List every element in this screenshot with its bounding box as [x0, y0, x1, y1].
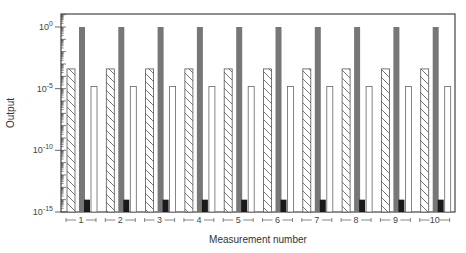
bar-group-4 — [185, 27, 215, 212]
bars — [67, 27, 451, 212]
bar-group-5 — [224, 27, 254, 212]
bar-white — [248, 86, 254, 212]
bar-gray — [433, 27, 439, 212]
bar-group-8 — [342, 27, 372, 212]
bar-gray — [79, 27, 85, 212]
x-category-6: 6 — [263, 215, 293, 225]
x-tick-label: 2 — [118, 215, 123, 225]
bar-group-9 — [381, 27, 411, 212]
bar-hatched — [421, 69, 429, 212]
x-category-4: 4 — [184, 215, 214, 225]
x-category-8: 8 — [341, 215, 371, 225]
bar-gray — [276, 27, 282, 212]
x-category-7: 7 — [302, 215, 332, 225]
bar-white — [327, 86, 333, 212]
bar-black — [123, 200, 129, 212]
y-tick-label: 10-10 — [33, 143, 53, 155]
x-category-10: 10 — [420, 215, 450, 225]
bar-hatched — [264, 69, 272, 212]
y-axis-title: Output — [5, 98, 16, 128]
x-axis-title: Measurement number — [209, 234, 307, 245]
bar-black — [320, 200, 326, 212]
bar-hatched — [303, 69, 311, 212]
x-category-9: 9 — [380, 215, 410, 225]
bar-black — [163, 200, 169, 212]
x-category-1: 1 — [66, 215, 96, 225]
x-category-5: 5 — [223, 215, 253, 225]
bar-white — [170, 86, 176, 212]
x-tick-label: 10 — [430, 215, 440, 225]
bar-black — [438, 200, 444, 212]
bar-hatched — [67, 69, 75, 212]
bar-group-1 — [67, 27, 97, 212]
bar-hatched — [381, 69, 389, 212]
y-tick-label: 10-5 — [37, 82, 53, 94]
bar-white — [91, 86, 97, 212]
bar-gray — [118, 27, 124, 212]
bar-gray — [315, 27, 321, 212]
x-tick-label: 9 — [393, 215, 398, 225]
bar-group-2 — [106, 27, 136, 212]
x-tick-label: 7 — [314, 215, 319, 225]
bar-white — [288, 86, 294, 212]
bar-black — [359, 200, 365, 212]
bar-group-6 — [264, 27, 294, 212]
bar-black — [398, 200, 404, 212]
x-tick-label: 4 — [196, 215, 201, 225]
bar-white — [405, 86, 411, 212]
y-tick-label: 100 — [39, 20, 53, 32]
bar-gray — [236, 27, 242, 212]
bar-hatched — [106, 69, 114, 212]
x-axis: 12345678910 — [66, 215, 450, 225]
bar-black — [202, 200, 208, 212]
bar-white — [366, 86, 372, 212]
bar-gray — [393, 27, 399, 212]
bar-black — [84, 200, 90, 212]
x-tick-label: 3 — [157, 215, 162, 225]
bar-hatched — [185, 69, 193, 212]
y-tick-label: 10-15 — [33, 205, 53, 217]
bar-black — [241, 200, 247, 212]
bar-chart: 10010-510-1010-15 12345678910 Measuremen… — [0, 0, 466, 253]
bar-gray — [197, 27, 203, 212]
bar-white — [209, 86, 215, 212]
bar-group-10 — [421, 27, 451, 212]
bar-white — [130, 86, 136, 212]
bar-hatched — [224, 69, 232, 212]
x-tick-label: 5 — [236, 215, 241, 225]
bar-gray — [354, 27, 360, 212]
bar-group-3 — [146, 27, 176, 212]
x-tick-label: 6 — [275, 215, 280, 225]
bar-hatched — [146, 69, 154, 212]
x-tick-label: 8 — [354, 215, 359, 225]
bar-group-7 — [303, 27, 333, 212]
x-category-2: 2 — [105, 215, 135, 225]
bar-white — [445, 86, 451, 212]
bar-black — [281, 200, 287, 212]
bar-hatched — [342, 69, 350, 212]
x-tick-label: 1 — [78, 215, 83, 225]
x-category-3: 3 — [145, 215, 175, 225]
bar-gray — [158, 27, 164, 212]
